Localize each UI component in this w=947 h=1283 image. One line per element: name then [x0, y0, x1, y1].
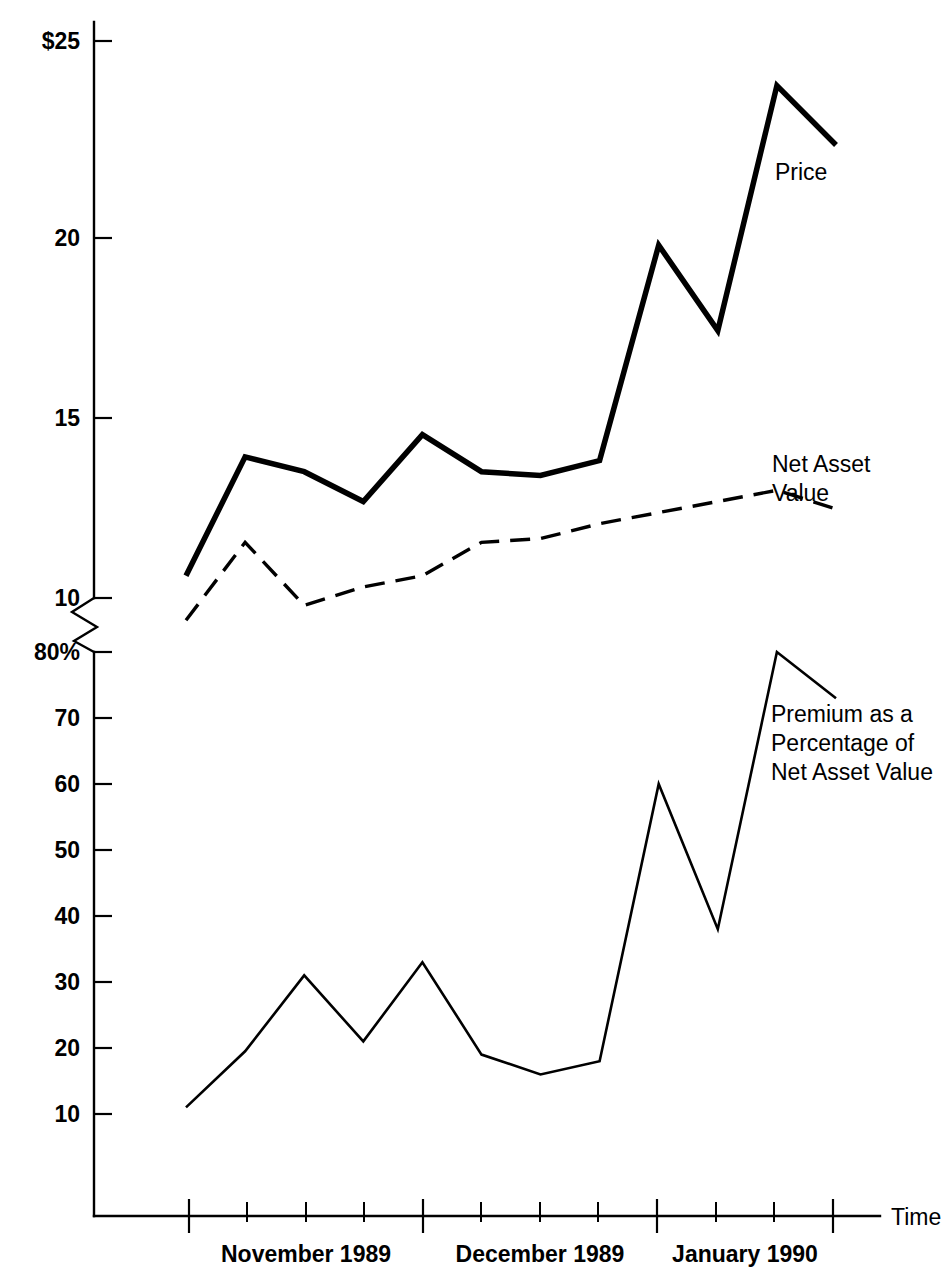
y-tick-label-70pct: 70 [54, 705, 80, 731]
y-tick-label-50pct: 50 [54, 837, 80, 863]
y-tick-label-10pct: 10 [54, 1101, 80, 1127]
series-label-premium-line1: Premium as a [771, 701, 913, 727]
y-tick-label-15: 15 [54, 405, 80, 431]
x-period-label-december: December 1989 [456, 1241, 625, 1267]
premium-price-nav-chart: $25 20 15 10 80% 70 60 50 40 30 20 10 [0, 0, 947, 1283]
y-tick-label-60pct: 60 [54, 771, 80, 797]
y-tick-label-10: 10 [54, 585, 80, 611]
series-label-price: Price [775, 159, 827, 185]
y-tick-label-25: $25 [42, 28, 81, 54]
chart-background [0, 0, 947, 1283]
y-tick-label-80pct: 80% [34, 639, 80, 665]
series-label-net-asset-value-line1: Net Asset [772, 451, 871, 477]
y-tick-label-30pct: 30 [54, 969, 80, 995]
y-tick-label-40pct: 40 [54, 903, 80, 929]
series-label-premium-line2: Percentage of [771, 730, 915, 756]
series-label-net-asset-value-line2: Value [772, 480, 829, 506]
y-tick-label-20pct: 20 [54, 1035, 80, 1061]
x-period-label-january: January 1990 [672, 1241, 818, 1267]
series-label-premium-line3: Net Asset Value [771, 759, 933, 785]
y-tick-label-20: 20 [54, 225, 80, 251]
x-period-label-november: November 1989 [221, 1241, 391, 1267]
x-axis-title: Time [891, 1204, 941, 1230]
